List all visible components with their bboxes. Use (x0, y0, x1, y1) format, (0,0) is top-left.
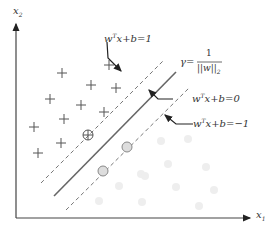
plus-marker (104, 60, 114, 70)
positive-points (29, 60, 121, 158)
plus-marker (59, 114, 69, 124)
circle-marker (98, 166, 108, 176)
lower-margin-arrow (165, 115, 193, 124)
upper-margin-line (41, 60, 164, 183)
gamma-lhs: γ= (180, 56, 194, 67)
plus-marker (33, 148, 43, 158)
plus-marker (111, 83, 121, 93)
equation-rest: x+b=−1 (206, 118, 250, 129)
y-axis-label: x2 (13, 5, 22, 18)
y-axis-subscript: 2 (19, 11, 23, 18)
equation-rest: x+b=1 (117, 33, 152, 44)
plus-marker (56, 138, 66, 148)
hyperplane-line (54, 72, 176, 196)
upper-margin-label: wTx+b=1 (104, 32, 152, 44)
gamma-den-sub: 2 (217, 68, 221, 75)
plus-marker (76, 100, 86, 110)
x-axis-subscript: 1 (262, 215, 266, 222)
positive-support-vector (83, 130, 93, 140)
w-symbol: w (192, 93, 201, 104)
lower-margin-label: wTx+b=−1 (193, 117, 249, 129)
w-symbol: w (193, 118, 202, 129)
plus-marker (29, 122, 39, 132)
plus-marker (57, 68, 67, 78)
x-axis-label: x1 (256, 209, 265, 222)
gamma-numerator: 1 (206, 48, 212, 58)
plus-marker (45, 94, 55, 104)
negative-points (95, 135, 218, 210)
circle-marker (122, 142, 132, 152)
equation-rest: x+b=0 (205, 93, 240, 104)
w-symbol: w (104, 33, 113, 44)
hyperplane-label: wTx+b=0 (192, 92, 240, 104)
plus-marker (86, 80, 96, 90)
gamma-label: γ= (180, 56, 194, 67)
gamma-num-text: 1 (206, 48, 212, 58)
gamma-denominator: ||w||2 (197, 63, 221, 75)
hyperplane-arrow (149, 90, 173, 99)
plus-marker (99, 107, 109, 117)
gamma-den-text: ||w|| (197, 63, 217, 73)
